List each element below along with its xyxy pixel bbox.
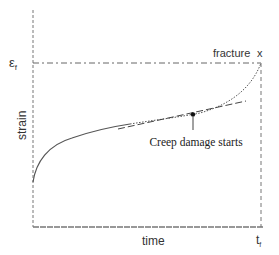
y-axis-label: strain	[15, 111, 29, 140]
creep-curve-tertiary	[130, 63, 261, 124]
steady-state-tangent	[118, 101, 246, 129]
creep-curve-diagram: εf strain time tf fracture x Creep damag…	[0, 0, 279, 255]
creep-curve-primary	[33, 124, 130, 182]
x-tick-fracture-time: tf	[256, 233, 261, 248]
creep-damage-annotation: Creep damage starts	[149, 136, 243, 149]
x-axis-label: time	[142, 234, 165, 248]
fracture-label: fracture	[213, 47, 250, 59]
fracture-marker: x	[257, 47, 263, 59]
creep-damage-point	[191, 112, 195, 116]
y-tick-fracture-strain: εf	[9, 55, 18, 72]
